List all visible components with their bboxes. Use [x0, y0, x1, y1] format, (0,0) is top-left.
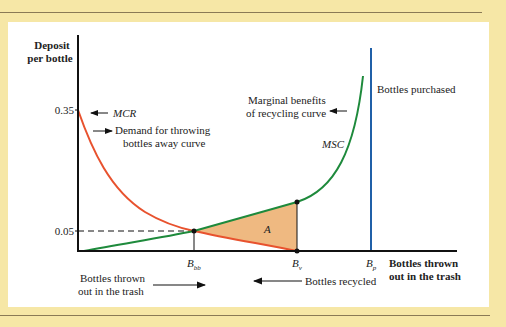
xtick-bbb: Bbb [187, 257, 201, 272]
xtick-bv: Bv [292, 257, 303, 272]
point-bv-bottom [295, 249, 300, 254]
mb-label-line1: Marginal benefits [248, 94, 326, 106]
trash-dir-line2: out in the trash [78, 285, 144, 297]
region-a-label: A [263, 223, 271, 235]
xlabel-line1: Bottles thrown [389, 257, 458, 269]
purchased-label: Bottles purchased [377, 83, 456, 95]
ytick-005: 0.05 [55, 225, 75, 237]
demand-label-line1: Demand for throwing [115, 124, 211, 136]
ytick-035: 0.35 [55, 104, 75, 116]
chart: Deposit per bottle 0.35 0.05 MCR Demand … [0, 0, 506, 327]
mb-label-line2: of recycling curve [246, 107, 326, 119]
point-bv-top [295, 200, 300, 205]
xlabel-line2: out in the trash [389, 270, 461, 282]
ylabel-line2: per bottle [27, 52, 72, 64]
msc-label: MSC [321, 138, 345, 150]
ylabel-line1: Deposit [34, 39, 70, 51]
demand-label-line2: bottles away curve [123, 137, 206, 149]
recycled-label: Bottles recycled [305, 275, 377, 287]
trash-dir-line1: Bottles thrown [80, 272, 146, 284]
mcr-label: MCR [112, 107, 137, 119]
point-bbb [192, 229, 197, 234]
xtick-bp: Bp [366, 257, 377, 272]
